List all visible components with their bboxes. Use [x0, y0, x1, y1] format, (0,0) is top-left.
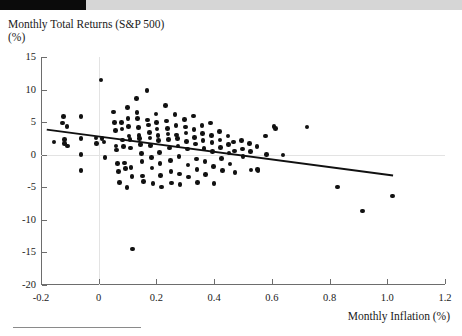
x-axis-tick-label: 0 — [79, 293, 119, 303]
y-axis-unit-label: (%) — [8, 31, 25, 44]
trendline-svg — [41, 57, 445, 285]
y-axis-tick-label: -15 — [22, 247, 36, 257]
x-axis-tick-label: 1.0 — [367, 293, 407, 303]
header-redacted-label — [3, 0, 85, 10]
y-axis-tick-label: 10 — [26, 85, 37, 95]
y-axis-tick-label: -10 — [22, 215, 36, 225]
x-axis-tick — [445, 279, 446, 284]
y-axis-tick-label: 0 — [31, 150, 36, 160]
scatter-plot-area — [41, 57, 445, 285]
chart-title: Monthly Total Returns (S&P 500) — [8, 18, 164, 31]
document-header-bar — [0, 0, 462, 11]
x-axis-tick-label: 0.6 — [252, 293, 292, 303]
y-axis-tick — [42, 285, 47, 286]
regression-trendline — [47, 130, 393, 176]
footer-rule — [13, 327, 141, 328]
x-axis-tick-label: 0.8 — [310, 293, 350, 303]
x-axis-tick-label: 0.2 — [136, 293, 176, 303]
y-axis-tick-label: -5 — [27, 182, 36, 192]
y-axis-tick-label: 5 — [31, 117, 36, 127]
x-axis-tick-label: -0.2 — [21, 293, 61, 303]
x-axis-tick-label: 1.2 — [425, 293, 462, 303]
y-axis-tick-label: -20 — [22, 280, 36, 290]
y-axis-tick-label: 15 — [26, 52, 37, 62]
x-axis-tick-label: 0.4 — [194, 293, 234, 303]
x-axis-title: Monthly Inflation (%) — [348, 310, 450, 323]
